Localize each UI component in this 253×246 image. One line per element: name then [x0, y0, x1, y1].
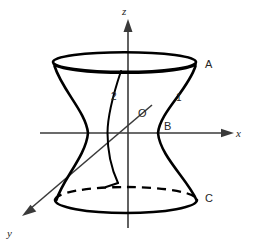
label-curve-2: 2 [111, 91, 117, 102]
hyperboloid-figure: A B C O 1 2 x y z [0, 0, 253, 246]
label-point-c: C [205, 192, 213, 204]
top-ellipse-rim [53, 52, 196, 72]
z-axis-arrowhead [124, 19, 133, 32]
label-point-a: A [205, 58, 213, 70]
x-axis [40, 129, 234, 138]
label-axis-z: z [121, 5, 127, 17]
bottom-ellipse-front-arc [55, 200, 197, 213]
label-point-b: B [164, 120, 171, 132]
bottom-ellipse-hidden-arc [55, 187, 197, 200]
label-axis-y: y [6, 227, 12, 239]
inner-hyperbola-curve [108, 71, 122, 183]
y-axis-line [30, 105, 152, 209]
hyperboloid-diagram: A B C O 1 2 x y z [0, 0, 253, 246]
label-axis-x: x [235, 127, 241, 139]
y-axis [22, 105, 152, 216]
label-curve-1: 1 [176, 92, 182, 103]
x-axis-arrowhead [221, 129, 234, 138]
labels-group: A B C O 1 2 x y z [6, 5, 241, 239]
label-origin-o: O [138, 107, 147, 119]
axes-group [22, 19, 234, 228]
